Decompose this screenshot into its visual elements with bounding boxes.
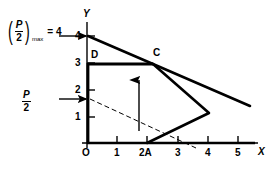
x-tick-label-2A: 2A xyxy=(139,148,152,158)
pmax-fraction: P 2 xyxy=(15,20,24,43)
p2-denominator: 2 xyxy=(23,103,31,113)
elastic-line xyxy=(90,99,196,148)
close-paren: ) xyxy=(25,20,30,42)
y-axis-label: Y xyxy=(83,9,90,19)
point-label-C: C xyxy=(153,48,160,58)
pmax-numerator: P xyxy=(15,20,24,30)
x-tick-label-5: 5 xyxy=(235,148,241,158)
open-paren: ( xyxy=(8,20,13,42)
x-tick-label-O: O xyxy=(82,148,90,158)
point-label-D: D xyxy=(91,50,98,60)
y-tick-label-4: 4 xyxy=(75,31,81,41)
x-tick-label-1: 1 xyxy=(114,148,120,158)
pmax-annotation: ( P 2 ) max = 4 xyxy=(6,20,62,43)
p2-numerator: P xyxy=(22,90,31,100)
pmax-equals: = 4 xyxy=(47,26,61,37)
y-tick-label-3: 3 xyxy=(75,58,81,68)
p2-annotation: P 2 xyxy=(22,84,31,113)
y-tick-label-2: 2 xyxy=(75,85,81,95)
y-tick-label-1: 1 xyxy=(75,112,81,122)
pmax-denominator: 2 xyxy=(15,33,23,43)
x-axis-label: X xyxy=(258,147,265,157)
upper-envelope xyxy=(88,36,250,106)
x-tick-label-3: 3 xyxy=(175,148,181,158)
p2-fraction: P 2 xyxy=(22,90,31,113)
pmax-subscript: max xyxy=(32,36,43,42)
figure-container: ( P 2 ) max = 4 P 2 4 3 2 1 O 1 2A 3 4 5… xyxy=(0,0,277,170)
x-tick-label-4: 4 xyxy=(205,148,211,158)
